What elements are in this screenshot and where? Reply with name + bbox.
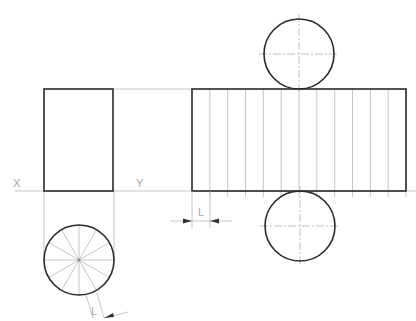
circle-chord-dimension: L bbox=[86, 293, 128, 318]
x-axis-label: X bbox=[13, 177, 21, 189]
bottom-end-circle-group bbox=[260, 186, 340, 266]
front-view-rectangle bbox=[44, 89, 113, 191]
circle-segment-label: L bbox=[91, 305, 97, 317]
development-division-lines bbox=[210, 89, 406, 197]
arrowhead-right-icon bbox=[210, 219, 219, 224]
development-segment-label: L bbox=[198, 206, 204, 218]
arrowhead-left-icon bbox=[183, 219, 192, 224]
top-end-circle-group bbox=[259, 14, 339, 94]
y-axis-label: Y bbox=[136, 177, 144, 189]
circle-center-point bbox=[78, 259, 81, 262]
chord-extension-line-2 bbox=[97, 293, 104, 318]
arrowhead-icon bbox=[104, 313, 114, 318]
top-view-circle-group bbox=[44, 225, 114, 295]
cylinder-development-drawing: X Y L L bbox=[0, 0, 416, 321]
development-segment-dimension: L bbox=[170, 191, 232, 228]
